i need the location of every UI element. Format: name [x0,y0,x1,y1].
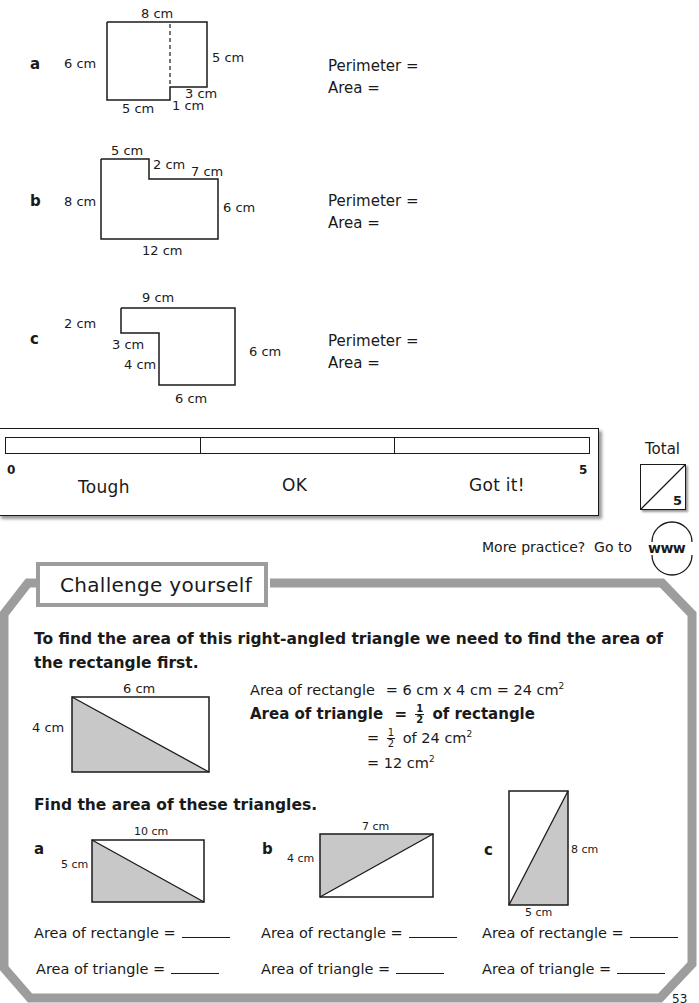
answer-blank[interactable] [630,924,678,938]
answer-tri-c: Area of triangle = [482,960,665,977]
answer-blank[interactable] [617,960,665,974]
answer-blank[interactable] [171,960,219,974]
answer-label: Area of rectangle = [482,925,624,941]
answer-label: Area of rectangle = [34,925,176,941]
answer-tri-a: Area of triangle = [36,960,219,977]
answer-label: Area of triangle = [261,961,390,977]
answer-blank[interactable] [182,924,230,938]
answer-rect-c: Area of rectangle = [482,924,678,941]
answer-label: Area of rectangle = [261,925,403,941]
answer-rect-b: Area of rectangle = [261,924,457,941]
answer-blank[interactable] [396,960,444,974]
answer-blank[interactable] [409,924,457,938]
answer-rect-a: Area of rectangle = [34,924,230,941]
answer-label: Area of triangle = [482,961,611,977]
answer-tri-b: Area of triangle = [261,960,444,977]
answer-label: Area of triangle = [36,961,165,977]
page-number: 53 [672,992,687,1003]
exercise-triangles [0,0,699,1003]
